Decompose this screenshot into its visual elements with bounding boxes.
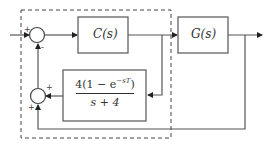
controller-label: C(s) <box>93 27 118 41</box>
summing-junction-1 <box>30 28 45 43</box>
numerator-close-paren: ) <box>130 78 134 91</box>
plant-label: G(s) <box>191 27 216 41</box>
block-diagram-canvas <box>0 0 275 148</box>
sum2-plus-bottom-sign: + <box>28 104 35 112</box>
sum1-plus-sign: + <box>24 26 31 34</box>
numerator-exponent: −sT <box>116 77 130 85</box>
summing-junction-2 <box>31 89 46 104</box>
sum1-minus-sign: - <box>41 44 44 52</box>
fraction-bar <box>76 93 134 94</box>
feedback-filter-transfer-function: 4(1 − e−sT) s + 4 <box>70 75 140 109</box>
sum2-plus-right-sign: + <box>46 84 53 92</box>
filter-denominator: s + 4 <box>70 96 140 109</box>
numerator-text: 4(1 − e <box>75 78 116 91</box>
inner-feedback-tap-line <box>148 35 162 95</box>
filter-numerator: 4(1 − e−sT) <box>70 75 140 91</box>
